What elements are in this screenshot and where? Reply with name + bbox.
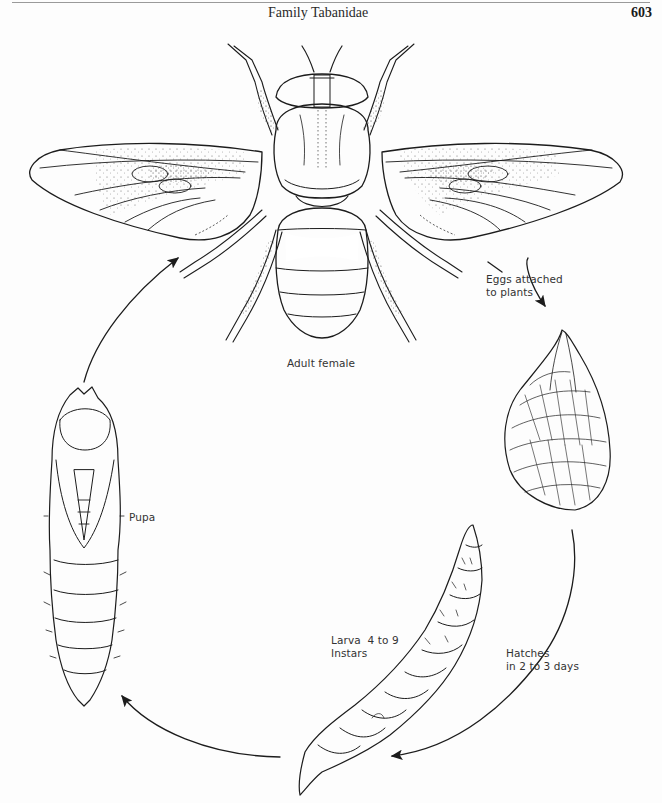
fly-abdomen [276,208,368,338]
left-wing [30,143,262,240]
pointer-eggs-label [488,262,502,272]
cycle-arrows [84,258,575,757]
larva-label-line-1: Larva 4 to 9 [331,634,399,647]
eggs-label: Eggs attached to plants [486,273,563,299]
eggs-label-line-1: Eggs attached [486,273,563,286]
larva-label-line-2: Instars [331,647,399,660]
pupa-label: Pupa [129,511,155,524]
mid-hind-legs [180,210,462,342]
larva-drawing [299,525,482,795]
fly-thorax [274,104,370,207]
arrow-pupa-to-adult [84,258,178,382]
right-wing [382,143,622,240]
larva-label: Larva 4 to 9 Instars [331,634,399,660]
hatches-label-line-1: Hatches [506,647,579,660]
pupa-drawing [44,387,126,706]
fly-head [276,74,368,108]
hatches-label-line-2: in 2 to 3 days [506,660,579,673]
egg-mass-drawing [505,330,610,510]
adult-female-label: Adult female [287,357,355,370]
life-cycle-illustration [0,0,662,803]
arrow-eggs-to-larva [392,530,575,756]
eggs-label-line-2: to plants [486,286,563,299]
arrow-larva-to-pupa [122,696,280,757]
hatches-label: Hatches in 2 to 3 days [506,647,579,673]
book-page: Family Tabanidae 603 [0,0,662,803]
